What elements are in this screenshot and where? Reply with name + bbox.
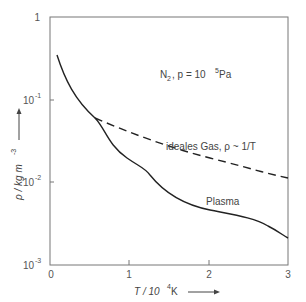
svg-text:K: K <box>171 286 178 297</box>
ideal-gas-label: ideales Gas, ρ ~ 1/T <box>166 141 256 152</box>
y-tick-1e-3-exp: -3 <box>35 257 41 264</box>
y-tick-1e-2-exp: -2 <box>35 174 41 181</box>
x-axis: 0 1 2 3 <box>48 260 291 280</box>
x-tick-3: 3 <box>285 269 291 280</box>
x-axis-label: T / 10 4 K <box>134 283 220 297</box>
svg-text:ρ / kg m: ρ / kg m <box>13 164 24 201</box>
svg-text:, p = 10: , p = 10 <box>172 69 206 80</box>
chart: 1 10 -1 10 -2 10 -3 0 1 2 3 T / 10 4 K ρ… <box>0 0 306 302</box>
y-axis-label: ρ / kg m -3 <box>10 108 24 201</box>
y-tick-1e-3: 10 <box>23 260 35 271</box>
annotation: N 2 , p = 10 5 Pa <box>160 67 232 82</box>
plasma-label: Plasma <box>206 196 240 207</box>
x-tick-0: 0 <box>48 269 54 280</box>
y-axis: 1 10 -1 10 -2 10 -3 <box>23 12 54 271</box>
y-tick-1e-1: 10 <box>23 95 35 106</box>
y-tick-1e-2: 10 <box>23 177 35 188</box>
y-tick-1e-1-exp: -1 <box>35 92 41 99</box>
svg-text:2: 2 <box>167 75 171 82</box>
x-tick-2: 2 <box>206 269 212 280</box>
svg-text:Pa: Pa <box>219 69 232 80</box>
x-tick-1: 1 <box>126 269 132 280</box>
svg-text:-3: -3 <box>10 149 17 155</box>
y-tick-1: 1 <box>34 12 40 23</box>
svg-text:T / 10: T / 10 <box>134 286 160 297</box>
